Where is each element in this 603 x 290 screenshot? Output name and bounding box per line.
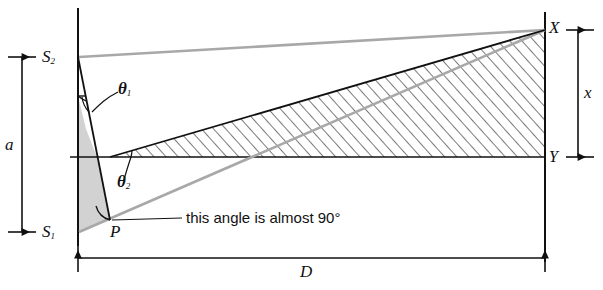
- label-source-s1: S1: [42, 222, 55, 242]
- label-angle-theta2: θ2: [117, 172, 130, 192]
- leader-annotation: [112, 218, 182, 220]
- label-point-y: Y: [549, 148, 558, 166]
- leader-theta1: [92, 92, 118, 112]
- diagram-canvas: S2 S1 a D X Y x θ1 θ2 P this angle is al…: [0, 0, 603, 290]
- label-dimension-D: D: [300, 262, 312, 282]
- label-dimension-a: a: [5, 135, 14, 155]
- label-source-s2: S2: [42, 47, 55, 67]
- diagram-svg: [0, 0, 603, 290]
- label-point-x: X: [549, 18, 559, 38]
- annotation-right-angle: this angle is almost 90°: [186, 209, 340, 226]
- label-point-p: P: [110, 222, 120, 242]
- label-angle-theta1: θ1: [118, 79, 131, 99]
- label-dimension-x: x: [584, 83, 592, 103]
